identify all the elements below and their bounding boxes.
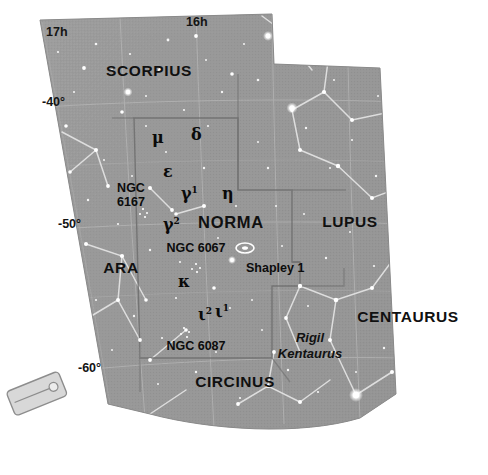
constellation-name-ara: ARA [103,259,138,276]
constellation-name-lupus: LUPUS [322,213,378,230]
sky-chart-svg: 17h 16h -40° -50° -60° SCORPIUS NORMA LU… [0,0,488,475]
dso-label-shapley1: Shapley 1 [246,261,304,275]
dso-label-ngc6167-line2: 6167 [117,195,145,209]
dso-label-ngc6087: NGC 6087 [166,339,225,353]
ra-label: 16h [186,15,208,29]
constellation-name-scorpius: SCORPIUS [106,62,192,79]
ra-label: 17h [46,25,68,39]
dso-label-ngc6167-line1: NGC [117,181,145,195]
dso-label-ngc6067: NGC 6067 [166,241,225,255]
dec-label: -40° [42,95,65,109]
dec-label: -50° [58,217,81,231]
constellation-name-circinus: CIRCINUS [195,373,275,390]
page-corner-ornament [6,371,68,416]
bayer-kappa: κ [178,272,190,291]
constellation-name-norma: NORMA [198,213,264,231]
sky-plate [0,0,488,475]
bayer-epsilon: ε [163,162,173,181]
star-name-rigil-line1: Rigil [296,330,325,345]
bayer-delta: δ [191,125,202,144]
bayer-mu: μ [152,128,164,147]
star-chart-page: 17h 16h -40° -50° -60° SCORPIUS NORMA LU… [0,0,488,475]
bayer-eta: η [222,184,234,203]
star-name-rigil-line2: Kentaurus [278,346,342,361]
constellation-name-centaurus: CENTAURUS [357,308,459,325]
dec-label: -60° [78,361,101,375]
